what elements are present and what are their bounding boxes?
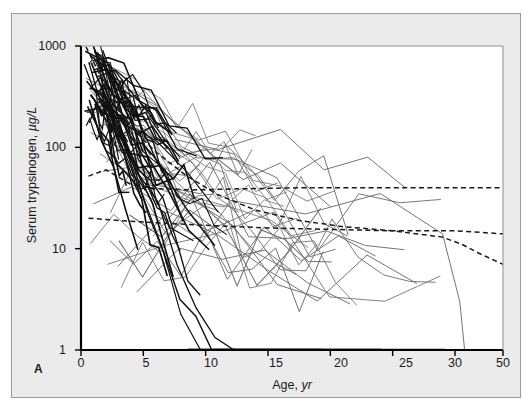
- chart-plot-area: [0, 0, 532, 414]
